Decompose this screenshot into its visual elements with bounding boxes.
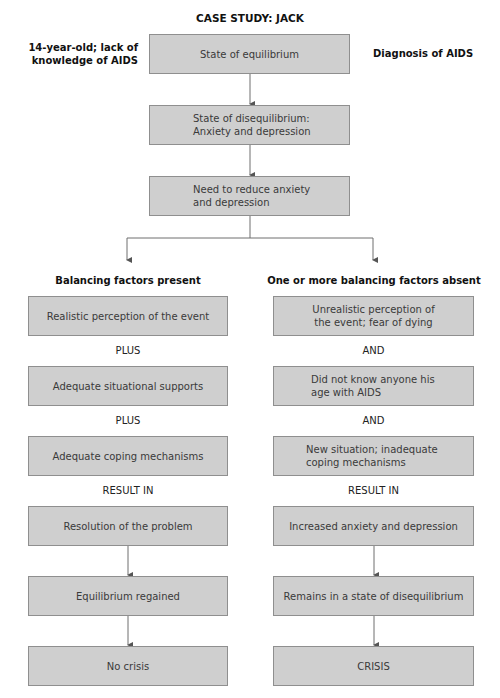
- right-box-no-peers: Did not know anyone his age with AIDS: [273, 366, 474, 406]
- box-text-line1: Unrealistic perception of: [312, 303, 434, 316]
- left-connector-result-in: RESULT IN: [28, 485, 228, 496]
- context-label-left-line1: 14-year-old; lack of: [28, 41, 138, 54]
- diagram-title: CASE STUDY: JACK: [0, 12, 500, 24]
- right-connector-and-2: AND: [273, 415, 474, 426]
- box-text-line1: Adequate coping mechanisms: [53, 450, 204, 463]
- box-text-line1: Need to reduce anxiety: [193, 183, 310, 196]
- box-text-line1: Equilibrium regained: [76, 590, 180, 603]
- box-text-line2: the event; fear of dying: [312, 316, 434, 329]
- box-text-line2: age with AIDS: [311, 386, 435, 399]
- right-branch-header: One or more balancing factors absent: [266, 275, 482, 286]
- box-text-line1: State of disequilibrium:: [193, 112, 311, 125]
- box-text-line1: New situation; inadequate: [306, 443, 438, 456]
- left-connector-plus-1: PLUS: [28, 345, 228, 356]
- left-box-realistic-perception: Realistic perception of the event: [28, 296, 228, 336]
- box-text-line1: Remains in a state of disequilibrium: [284, 590, 464, 603]
- context-label-left: 14-year-old; lack of knowledge of AIDS: [28, 41, 138, 67]
- box-text-line1: State of equilibrium: [200, 48, 299, 61]
- box-state-of-disequilibrium: State of disequilibrium: Anxiety and dep…: [149, 105, 350, 145]
- box-text-line2: and depression: [193, 196, 310, 209]
- right-box-remains-disequilibrium: Remains in a state of disequilibrium: [273, 576, 474, 616]
- right-box-unrealistic-perception: Unrealistic perception of the event; fea…: [273, 296, 474, 336]
- left-box-no-crisis: No crisis: [28, 646, 228, 686]
- left-box-coping-mechanisms: Adequate coping mechanisms: [28, 436, 228, 476]
- box-state-of-equilibrium: State of equilibrium: [149, 34, 350, 74]
- left-branch-header: Balancing factors present: [28, 275, 228, 286]
- left-connector-plus-2: PLUS: [28, 415, 228, 426]
- context-label-right: Diagnosis of AIDS: [373, 47, 493, 60]
- right-box-crisis: CRISIS: [273, 646, 474, 686]
- box-text-line1: Adequate situational supports: [53, 380, 203, 393]
- box-text-line1: CRISIS: [357, 660, 390, 673]
- left-box-resolution: Resolution of the problem: [28, 506, 228, 546]
- right-connector-and-1: AND: [273, 345, 474, 356]
- right-box-increased-anxiety: Increased anxiety and depression: [273, 506, 474, 546]
- left-box-equilibrium-regained: Equilibrium regained: [28, 576, 228, 616]
- box-need-to-reduce-anxiety: Need to reduce anxiety and depression: [149, 176, 350, 216]
- box-text-line1: Realistic perception of the event: [47, 310, 210, 323]
- box-text-line1: Increased anxiety and depression: [289, 520, 458, 533]
- context-label-left-line2: knowledge of AIDS: [28, 54, 138, 67]
- right-connector-result-in: RESULT IN: [273, 485, 474, 496]
- left-box-situational-supports: Adequate situational supports: [28, 366, 228, 406]
- box-text-line2: Anxiety and depression: [193, 125, 311, 138]
- right-box-new-situation: New situation; inadequate coping mechani…: [273, 436, 474, 476]
- box-text-line1: Did not know anyone his: [311, 373, 435, 386]
- box-text-line1: No crisis: [107, 660, 149, 673]
- box-text-line2: coping mechanisms: [306, 456, 438, 469]
- box-text-line1: Resolution of the problem: [63, 520, 192, 533]
